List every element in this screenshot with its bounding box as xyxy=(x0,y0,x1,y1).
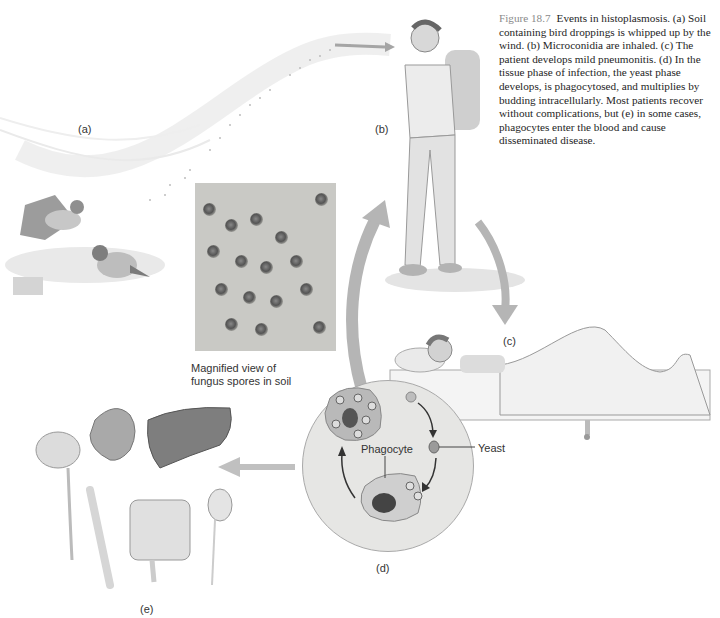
liver-icon xyxy=(148,408,232,469)
kidney-icon xyxy=(208,489,232,521)
brain-icon xyxy=(36,432,80,468)
bone-icon xyxy=(90,490,110,585)
heart-icon xyxy=(90,409,135,461)
organs-illustration xyxy=(30,400,260,600)
phagocyte-label: Phagocyte xyxy=(361,443,413,455)
panel-label-d: (d) xyxy=(376,562,389,574)
intestine-icon xyxy=(130,500,190,560)
panel-label-e: (e) xyxy=(140,603,153,615)
tissue-phase-diagram xyxy=(300,378,500,558)
panel-label-c: (c) xyxy=(503,335,516,347)
yeast-label: Yeast xyxy=(478,442,505,454)
